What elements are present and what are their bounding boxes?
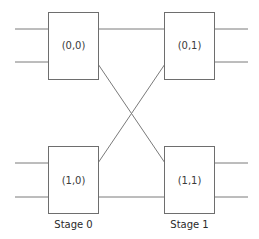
switch-0-1: (0,1) bbox=[165, 13, 215, 80]
stage-1-label: Stage 1 bbox=[170, 219, 208, 230]
switch-label: (0,1) bbox=[178, 40, 202, 51]
switch-label: (1,0) bbox=[62, 175, 86, 186]
switch-label: (0,0) bbox=[62, 40, 86, 51]
switch-0-0: (0,0) bbox=[49, 13, 99, 80]
switch-1-1: (1,1) bbox=[165, 147, 215, 214]
stage-0-label: Stage 0 bbox=[54, 219, 92, 230]
switch-network-diagram: (0,0) (0,1) (1,0) (1,1) Stage 0 Stage 1 bbox=[0, 0, 259, 239]
switch-1-0: (1,0) bbox=[49, 147, 99, 214]
switch-label: (1,1) bbox=[178, 175, 202, 186]
